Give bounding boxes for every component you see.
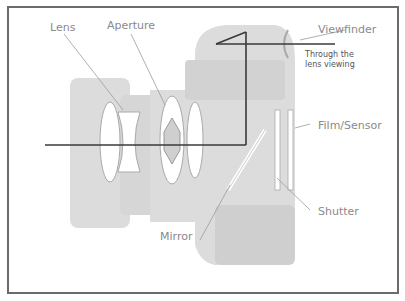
through-lens-line1: Through the — [305, 50, 354, 59]
through-lens-line2: lens viewing — [305, 60, 355, 69]
slr-camera-diagram — [0, 0, 405, 301]
label-viewfinder: Viewfinder — [318, 24, 376, 35]
label-through-lens-viewing: Through the lens viewing — [305, 50, 365, 70]
label-film-sensor: Film/Sensor — [318, 120, 382, 131]
label-shutter: Shutter — [318, 206, 359, 217]
label-mirror: Mirror — [160, 231, 192, 242]
label-lens: Lens — [50, 22, 75, 33]
label-aperture: Aperture — [107, 20, 155, 31]
